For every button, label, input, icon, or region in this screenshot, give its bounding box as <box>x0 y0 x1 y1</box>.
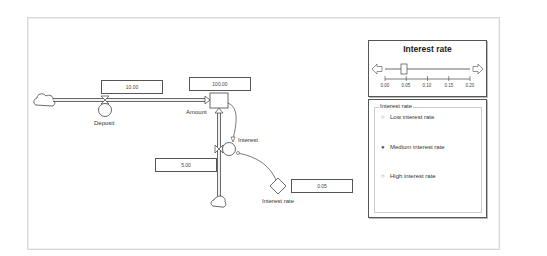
amount-label: Amount <box>186 109 207 115</box>
radio-unchecked-icon[interactable]: ○ <box>381 114 387 120</box>
cloud-source-icon <box>34 94 55 106</box>
connector-arrowhead-icon <box>231 137 235 142</box>
arrow-left-icon[interactable] <box>372 64 382 74</box>
tick-label: 0.05 <box>402 83 411 88</box>
interest-value-box: 5.00 <box>155 158 217 172</box>
connector-amount-interest[interactable] <box>228 103 236 139</box>
radio-high-interest-rate[interactable]: ○High interest rate <box>381 173 436 179</box>
tick-label: 0.15 <box>445 83 454 88</box>
interest-rate-constant-diamond[interactable] <box>270 178 286 194</box>
interest-flow-pipe[interactable] <box>218 113 221 196</box>
connector-arrowhead-icon <box>237 152 240 155</box>
interest-rate-value-box: 0.05 <box>291 179 353 193</box>
interest-rate-slider-panel: Interest rate 0.00 0.05 0.10 0.15 0.20 <box>368 40 487 97</box>
arrow-right-icon[interactable] <box>473 64 483 74</box>
slider-ticks <box>385 76 470 81</box>
connector-rate-interest[interactable] <box>238 153 276 180</box>
radio-checked-icon[interactable]: ● <box>381 144 387 150</box>
deposit-label: Deposit <box>94 120 114 126</box>
deposit-flow-pipe[interactable] <box>53 99 205 102</box>
interest-valve-icon[interactable] <box>215 143 236 156</box>
radio-label: Medium interest rate <box>390 144 445 150</box>
radio-label: Low interest rate <box>390 114 434 120</box>
radio-medium-interest-rate[interactable]: ●Medium interest rate <box>381 144 445 150</box>
interest-rate-radio-panel: Interest rate ○Low interest rate ●Medium… <box>368 99 487 218</box>
radio-label: High interest rate <box>390 173 436 179</box>
groupbox-legend: Interest rate <box>379 103 413 109</box>
amount-value-box: 100.00 <box>189 77 251 91</box>
tick-label: 0.20 <box>466 83 475 88</box>
flow-arrowhead-up-icon <box>215 108 223 113</box>
interest-rate-groupbox: Interest rate ○Low interest rate ●Medium… <box>374 107 482 213</box>
deposit-valve-icon[interactable] <box>99 96 112 117</box>
radio-low-interest-rate[interactable]: ○Low interest rate <box>381 114 434 120</box>
interest-label: Interest <box>238 137 258 143</box>
radio-unchecked-icon[interactable]: ○ <box>381 173 387 179</box>
interest-rate-label: Interest rate <box>262 198 294 204</box>
slider-thumb[interactable] <box>401 64 407 74</box>
deposit-value-box: 10.00 <box>101 80 163 94</box>
flow-arrowhead-icon <box>205 96 210 104</box>
tick-label: 0.10 <box>423 83 432 88</box>
tick-label: 0.00 <box>381 83 390 88</box>
cloud-sink-icon <box>211 196 226 207</box>
amount-stock-box[interactable] <box>210 93 228 108</box>
